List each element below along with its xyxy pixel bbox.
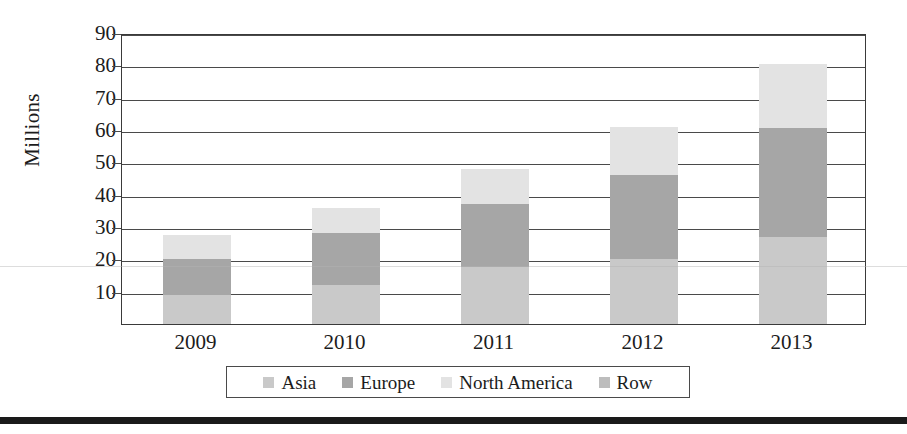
plot-area (121, 34, 866, 325)
y-axis-tick-labels: 908070605040302010 (52, 0, 116, 325)
y-tick-label-80: 80 (62, 55, 116, 76)
y-tick-label-70: 70 (62, 88, 116, 109)
bar-segment-2013-asia (759, 237, 827, 324)
y-tick-mark-30 (112, 228, 121, 229)
bar-segment-2010-north-america (312, 208, 380, 234)
scan-artifact-line (0, 266, 907, 267)
bar-segment-2010-europe (312, 233, 380, 285)
bar-segment-2012-europe (610, 175, 678, 259)
legend-item-row[interactable]: Row (599, 373, 653, 392)
y-tick-mark-80 (112, 66, 121, 67)
bar-segment-2011-europe (461, 204, 529, 267)
y-tick-label-50: 50 (62, 152, 116, 173)
y-tick-label-20: 20 (62, 249, 116, 270)
legend-label: Row (617, 373, 653, 392)
y-tick-label-10: 10 (62, 282, 116, 303)
y-tick-mark-10 (112, 293, 121, 294)
legend-swatch-icon (342, 377, 353, 388)
bar-segment-2009-europe (163, 259, 231, 295)
bar-segment-2012-north-america (610, 127, 678, 176)
legend-swatch-icon (263, 377, 274, 388)
stacked-bar-chart-figure: Millions 908070605040302010 200920102011… (0, 0, 907, 434)
legend-label: Asia (281, 373, 316, 392)
legend-item-north-america[interactable]: North America (441, 373, 572, 392)
bar-group-2012 (610, 33, 678, 324)
bottom-rule (0, 417, 907, 424)
bar-segment-2009-north-america (163, 235, 231, 259)
y-tick-mark-20 (112, 260, 121, 261)
bar-group-2011 (461, 33, 529, 324)
y-tick-label-90: 90 (62, 23, 116, 44)
x-axis-tick-labels: 20092010201120122013 (121, 330, 866, 360)
y-axis-title: Millions (20, 60, 44, 200)
y-tick-mark-90 (112, 34, 121, 35)
y-tick-mark-50 (112, 163, 121, 164)
chart-legend: AsiaEuropeNorth AmericaRow (226, 366, 690, 398)
legend-swatch-icon (599, 377, 610, 388)
y-tick-label-40: 40 (62, 185, 116, 206)
y-tick-mark-60 (112, 131, 121, 132)
bar-group-2013 (759, 33, 827, 324)
legend-item-asia[interactable]: Asia (263, 373, 316, 392)
legend-item-europe[interactable]: Europe (342, 373, 415, 392)
legend-label: Europe (360, 373, 415, 392)
bar-segment-2013-north-america (759, 64, 827, 129)
y-tick-mark-70 (112, 99, 121, 100)
bar-segment-2009-asia (163, 295, 231, 324)
y-tick-mark-40 (112, 196, 121, 197)
bar-segment-2011-asia (461, 267, 529, 324)
y-tick-label-60: 60 (62, 120, 116, 141)
bar-series-container (122, 35, 865, 324)
legend-swatch-icon (441, 377, 452, 388)
y-tick-label-30: 30 (62, 217, 116, 238)
legend-label: North America (459, 373, 572, 392)
bar-segment-2011-north-america (461, 169, 529, 205)
bar-group-2009 (163, 33, 231, 324)
bar-segment-2012-asia (610, 259, 678, 324)
x-tick-label-2012: 2012 (583, 330, 703, 355)
x-tick-label-2011: 2011 (434, 330, 554, 355)
bar-segment-2010-asia (312, 285, 380, 324)
bar-group-2010 (312, 33, 380, 324)
x-tick-label-2013: 2013 (732, 330, 852, 355)
x-tick-label-2009: 2009 (136, 330, 256, 355)
x-tick-label-2010: 2010 (285, 330, 405, 355)
bar-segment-2013-europe (759, 128, 827, 236)
